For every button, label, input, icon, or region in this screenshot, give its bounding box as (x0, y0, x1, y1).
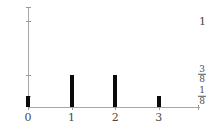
y-tick-mark (26, 21, 31, 22)
y-tick-label: 18 (184, 96, 206, 116)
y-axis-line (28, 8, 29, 108)
x-tick-label: 3 (149, 112, 169, 123)
probability-mass-chart: 18381 0123 (0, 0, 206, 129)
fraction-denominator: 8 (198, 96, 206, 107)
y-tick-mark (26, 75, 31, 76)
fraction-label: 38 (198, 64, 206, 84)
y-tick-label: 1 (184, 15, 206, 26)
bar (26, 96, 30, 107)
bar (157, 96, 161, 107)
x-tick-label: 0 (18, 112, 38, 123)
y-axis-arrow-icon (26, 7, 31, 8)
y-tick-label: 38 (184, 75, 206, 95)
fraction-numerator: 3 (198, 64, 206, 74)
x-tick-label: 1 (62, 112, 82, 123)
x-axis-line (28, 107, 200, 108)
fraction-denominator: 8 (198, 74, 206, 85)
bar (113, 75, 117, 107)
x-tick-label: 2 (105, 112, 125, 123)
bar (70, 75, 74, 107)
